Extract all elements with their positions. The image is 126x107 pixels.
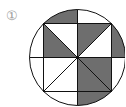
shaded-bottom-segment-right (78, 92, 112, 107)
shaded-right-segment-upper (112, 9, 126, 58)
center-point (76, 56, 79, 59)
circle-square-diagram (0, 0, 125, 106)
